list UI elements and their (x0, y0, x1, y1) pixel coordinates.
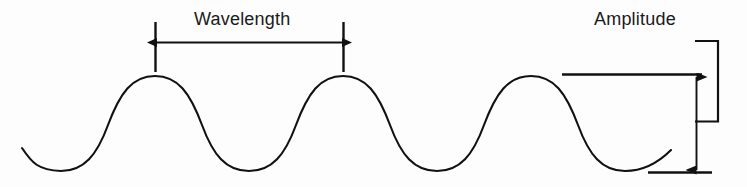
amplitude-bracket (695, 41, 718, 122)
wave-curve (22, 76, 671, 171)
wave-diagram: Wavelength Amplitude (0, 0, 747, 187)
amplitude-label: Amplitude (594, 10, 676, 28)
wavelength-label: Wavelength (194, 10, 290, 28)
